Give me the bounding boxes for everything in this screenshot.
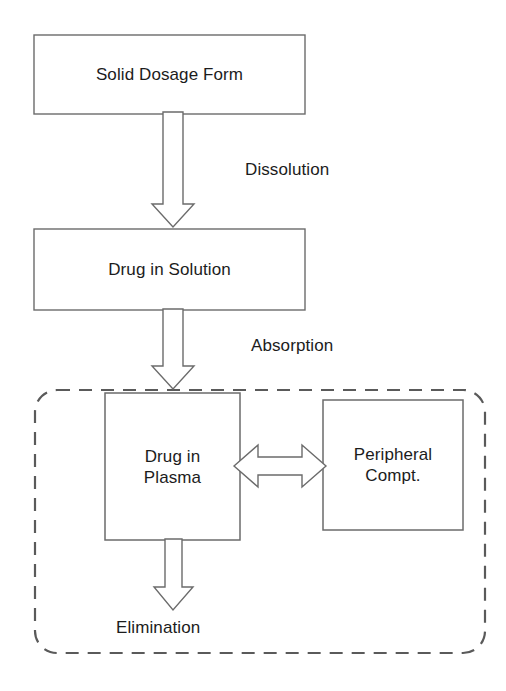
solid-dosage-form-node[interactable] [34,35,305,114]
drug-in-solution-node[interactable] [34,229,305,310]
peripheral-compartment-node[interactable] [323,400,463,530]
drug-in-plasma-node[interactable] [105,393,240,540]
elimination-label: Elimination [116,618,200,638]
elimination-arrow-icon[interactable] [154,539,193,610]
absorption-arrow-icon[interactable] [152,309,194,389]
dissolution-arrow-icon[interactable] [152,112,194,227]
diagram-canvas: Solid Dosage Form Drug in Solution Drug … [0,0,506,691]
absorption-label: Absorption [251,336,333,356]
distribution-double-arrow-icon[interactable] [234,445,326,487]
dissolution-label: Dissolution [245,160,329,180]
